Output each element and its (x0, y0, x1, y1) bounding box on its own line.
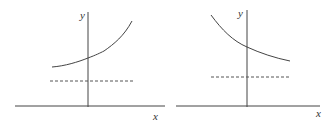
figure: y x y x (0, 0, 332, 129)
x-axis-label: x (152, 110, 158, 122)
right-graph: y x (176, 7, 321, 119)
y-axis-label: y (79, 9, 85, 21)
decay-curve (211, 15, 290, 61)
y-axis-label: y (237, 7, 243, 19)
x-axis-label: x (315, 107, 321, 119)
growth-curve (52, 21, 132, 67)
left-graph: y x (15, 9, 165, 122)
